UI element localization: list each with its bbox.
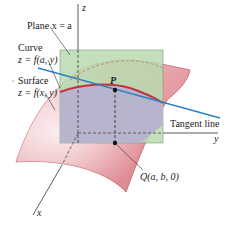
point-p (113, 88, 117, 92)
z-axis-label: z (81, 2, 86, 13)
point-q (113, 141, 117, 145)
surface-equation: z = f(x, y) (17, 87, 58, 99)
diagram-canvas: z y x Plane x = a Curve z = f(a, y) Surf… (0, 0, 231, 228)
bullet-dot (12, 80, 14, 82)
point-q-label: Q(a, b, 0) (140, 171, 180, 183)
x-axis-label: x (36, 207, 42, 218)
curve-equation: z = f(a, y) (17, 54, 58, 66)
curve-label: Curve (18, 42, 43, 53)
y-axis-label: y (213, 133, 219, 144)
surface-label: Surface (18, 75, 49, 86)
point-p-label: P (110, 75, 117, 86)
plane-label: Plane x = a (27, 20, 72, 31)
tangent-line-label: Tangent line (170, 118, 220, 129)
